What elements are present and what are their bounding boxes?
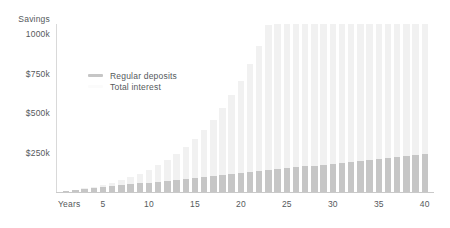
bar-segment-regular-deposits	[109, 186, 115, 192]
legend-swatch-total-interest	[88, 85, 103, 88]
x-axis-line	[56, 192, 434, 193]
bar-segment-regular-deposits	[412, 155, 418, 192]
bar-column[interactable]	[256, 46, 262, 192]
bar-column[interactable]	[155, 165, 161, 192]
y-axis-tick-label: $250k	[26, 148, 50, 158]
bar-segment-regular-deposits	[183, 179, 189, 192]
bar-column[interactable]	[146, 170, 152, 192]
bar-segment-total-interest	[284, 24, 290, 168]
plot-area	[57, 24, 434, 192]
x-axis-tick-label: 25	[267, 199, 307, 209]
bar-segment-total-interest	[330, 24, 336, 164]
bar-column[interactable]	[348, 24, 354, 192]
bar-segment-regular-deposits	[274, 169, 280, 192]
bar-column[interactable]	[91, 187, 97, 192]
bar-column[interactable]	[293, 24, 299, 192]
legend-label-total-interest: Total interest	[110, 82, 161, 92]
y-axis-tick-label: 1000k	[26, 29, 50, 39]
bar-column[interactable]	[63, 191, 69, 192]
bar-segment-regular-deposits	[91, 188, 97, 192]
legend-label-regular-deposits: Regular deposits	[110, 71, 177, 81]
bar-column[interactable]	[412, 24, 418, 192]
bar-column[interactable]	[357, 24, 363, 192]
bar-column[interactable]	[302, 24, 308, 192]
bar-segment-total-interest	[192, 139, 198, 178]
y-axis-tick-label: $750k	[26, 69, 50, 79]
bar-segment-total-interest	[201, 130, 207, 177]
bar-column[interactable]	[366, 24, 372, 192]
bar-column[interactable]	[183, 147, 189, 192]
bar-column[interactable]	[274, 24, 280, 192]
legend-item-total-interest[interactable]: Total interest	[88, 81, 177, 92]
bar-segment-total-interest	[256, 46, 262, 171]
bar-column[interactable]	[394, 24, 400, 192]
bar-column[interactable]	[422, 24, 428, 192]
bar-segment-total-interest	[357, 24, 363, 161]
bar-segment-total-interest	[394, 24, 400, 157]
bar-column[interactable]	[228, 95, 234, 192]
bar-segment-regular-deposits	[192, 178, 198, 192]
bar-column[interactable]	[385, 24, 391, 192]
bar-segment-regular-deposits	[127, 184, 133, 192]
bar-column[interactable]	[219, 108, 225, 192]
bar-segment-regular-deposits	[201, 177, 207, 192]
bar-segment-regular-deposits	[422, 154, 428, 192]
x-axis-tick-label: 5	[83, 199, 123, 209]
bar-column[interactable]	[339, 24, 345, 192]
bar-column[interactable]	[247, 64, 253, 192]
x-axis-tick-label: 15	[175, 199, 215, 209]
bar-column[interactable]	[403, 24, 409, 192]
bar-column[interactable]	[164, 160, 170, 192]
legend-item-regular-deposits[interactable]: Regular deposits	[88, 70, 177, 81]
bar-column[interactable]	[127, 177, 133, 192]
bar-column[interactable]	[265, 25, 271, 192]
bar-column[interactable]	[320, 24, 326, 192]
bar-column[interactable]	[311, 24, 317, 192]
bar-segment-total-interest	[274, 24, 280, 169]
bar-column[interactable]	[238, 81, 244, 192]
bar-column[interactable]	[330, 24, 336, 192]
bar-segment-total-interest	[155, 165, 161, 182]
bar-segment-regular-deposits	[311, 166, 317, 193]
bar-column[interactable]	[100, 185, 106, 192]
bar-segment-regular-deposits	[348, 162, 354, 192]
bar-segment-regular-deposits	[293, 167, 299, 192]
x-axis-title: Years	[58, 199, 80, 209]
bar-column[interactable]	[118, 180, 124, 192]
bar-column[interactable]	[201, 130, 207, 192]
bar-segment-total-interest	[228, 95, 234, 174]
bar-column[interactable]	[192, 139, 198, 192]
bar-segment-regular-deposits	[81, 189, 87, 192]
bar-segment-regular-deposits	[330, 164, 336, 192]
bar-segment-regular-deposits	[366, 160, 372, 192]
bar-segment-regular-deposits	[385, 158, 391, 192]
bar-segment-total-interest	[183, 147, 189, 179]
y-axis-title: Savings	[18, 14, 50, 24]
bar-segment-total-interest	[219, 108, 225, 175]
bar-column[interactable]	[137, 174, 143, 192]
bar-segment-regular-deposits	[265, 170, 271, 192]
bar-segment-total-interest	[164, 160, 170, 181]
bar-segment-regular-deposits	[72, 190, 78, 192]
bar-segment-total-interest	[238, 81, 244, 173]
y-axis-tick-label: $500k	[26, 108, 50, 118]
x-axis-tick-label: 20	[221, 199, 261, 209]
bar-column[interactable]	[72, 190, 78, 192]
bar-segment-regular-deposits	[146, 183, 152, 192]
x-axis-tick-label: 10	[129, 199, 169, 209]
bar-column[interactable]	[210, 120, 216, 192]
bar-segment-total-interest	[247, 64, 253, 172]
bar-column[interactable]	[284, 24, 290, 192]
bar-segment-total-interest	[376, 24, 382, 159]
bar-segment-regular-deposits	[247, 172, 253, 192]
bar-column[interactable]	[81, 188, 87, 192]
bar-segment-total-interest	[320, 24, 326, 165]
bar-column[interactable]	[173, 154, 179, 192]
bar-segment-regular-deposits	[394, 157, 400, 192]
bar-segment-regular-deposits	[155, 182, 161, 192]
bar-segment-total-interest	[127, 177, 133, 184]
bar-segment-regular-deposits	[302, 166, 308, 192]
bar-column[interactable]	[376, 24, 382, 192]
bar-column[interactable]	[109, 183, 115, 192]
x-axis-tick-label: 40	[405, 199, 445, 209]
